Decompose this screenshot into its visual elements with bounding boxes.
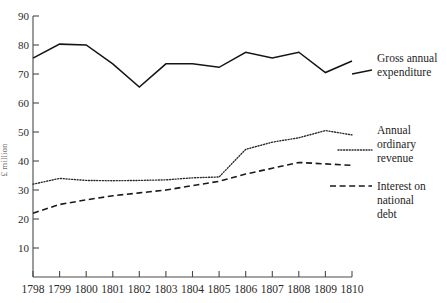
legend-label-line: debt	[377, 208, 398, 220]
legend-label-line: Annual	[377, 124, 411, 136]
x-tick-label: 1809	[314, 283, 337, 295]
y-tick-label: 70	[18, 68, 30, 80]
x-tick-label: 1802	[128, 283, 151, 295]
x-tick-label: 1803	[154, 283, 177, 295]
x-tick-label: 1806	[234, 283, 257, 295]
series-line-gross-annual-expenditure	[33, 44, 352, 87]
y-tick-label: 90	[18, 10, 30, 22]
x-tick-label: 1807	[261, 283, 284, 295]
x-tick-label: 1799	[48, 283, 71, 295]
chart-container: 90 80 70 60 50 40 30 20 10 £ million	[0, 0, 447, 303]
legend-label-line: revenue	[377, 152, 413, 164]
legend-item-annual-ordinary-revenue: Annual ordinary revenue	[377, 124, 416, 164]
legend-item-gross-annual-expenditure: Gross annual expenditure	[377, 52, 437, 79]
x-tick-label: 1805	[208, 283, 231, 295]
legend-label-line: national	[377, 194, 414, 206]
y-tick-label: 30	[18, 184, 30, 196]
legend-label-line: ordinary	[377, 138, 416, 151]
series-line-interest-on-national-debt	[33, 162, 352, 213]
y-tick-label: 60	[18, 97, 30, 109]
line-chart: 90 80 70 60 50 40 30 20 10 £ million	[0, 0, 447, 303]
y-tick-label: 40	[18, 155, 30, 167]
x-tick-label: 1808	[287, 283, 310, 295]
legend-item-interest-on-national-debt: Interest on national debt	[377, 180, 426, 220]
y-tick-label: 80	[18, 39, 30, 51]
x-tick-label: 1798	[22, 283, 45, 295]
legend-label-line: Interest on	[377, 180, 426, 192]
y-tick-label: 50	[18, 126, 30, 138]
y-tick-label: 20	[18, 213, 30, 225]
legend-label-line: expenditure	[377, 66, 431, 79]
x-tick-label: 1800	[75, 283, 98, 295]
x-tick-label: 1810	[341, 283, 364, 295]
x-tick-label: 1804	[181, 283, 204, 295]
x-axis-ticks	[33, 271, 352, 277]
legend-leader-gross-annual-expenditure	[352, 70, 372, 74]
y-tick-label: 10	[18, 242, 30, 254]
series-line-annual-ordinary-revenue	[33, 131, 352, 185]
y-axis-title: £ million	[0, 143, 9, 176]
legend-label-line: Gross annual	[377, 52, 437, 64]
x-axis-tick-labels: 1798 1799 1800 1801 1802 1803 1804 1805 …	[22, 283, 364, 295]
x-tick-label: 1801	[101, 283, 124, 295]
y-axis-tick-labels: 90 80 70 60 50 40 30 20 10	[18, 10, 30, 254]
